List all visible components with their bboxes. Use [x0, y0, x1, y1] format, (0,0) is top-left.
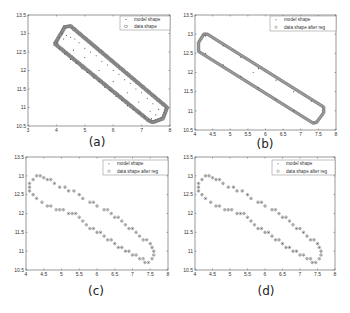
plot-d-svg: 44.555.566.577.5810.51111.51212.51313.5m…	[0, 0, 350, 313]
x-tick-label: 6	[264, 271, 267, 277]
y-tick-label: 13	[187, 173, 193, 179]
y-tick-label: 11.5	[184, 229, 194, 235]
x-tick-label: 4.5	[209, 271, 216, 277]
x-tick-label: 7	[299, 271, 302, 277]
y-tick-label: 11	[188, 248, 193, 254]
x-tick-label: 5	[229, 271, 232, 277]
x-tick-label: 5.5	[244, 271, 251, 277]
legend-entry: data shape after reg	[286, 169, 328, 174]
x-tick-label: 8	[334, 271, 337, 277]
panel-label-d: (d)	[258, 284, 275, 298]
y-tick-label: 12.5	[183, 191, 193, 197]
x-tick-label: 6.5	[279, 271, 286, 277]
x-tick-label: 7.5	[314, 271, 321, 277]
y-tick-label: 13.5	[183, 154, 193, 160]
y-tick-label: 12	[187, 210, 193, 216]
x-tick-label: 4	[194, 271, 197, 277]
subplot-d: 44.555.566.577.5810.51111.51212.51313.5m…	[0, 0, 350, 313]
legend-entry: model shape	[286, 161, 313, 166]
y-tick-label: 10.5	[183, 267, 193, 273]
